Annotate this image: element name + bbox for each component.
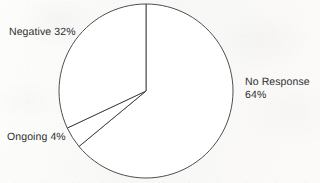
slice-label-ongoing: Ongoing 4%: [7, 131, 66, 144]
slice-label-ongoing-text: Ongoing 4%: [7, 131, 66, 143]
slice-label-negative-text: Negative 32%: [9, 26, 76, 38]
pie-slice-group: [59, 4, 233, 178]
slice-label-no-response: No Response 64%: [245, 76, 310, 101]
slice-label-negative: Negative 32%: [9, 26, 76, 39]
slice-label-no-response-value: 64%: [245, 89, 310, 102]
pie-chart-figure: Negative 32% No Response 64% Ongoing 4%: [0, 0, 320, 183]
slice-label-no-response-name: No Response: [245, 76, 310, 89]
